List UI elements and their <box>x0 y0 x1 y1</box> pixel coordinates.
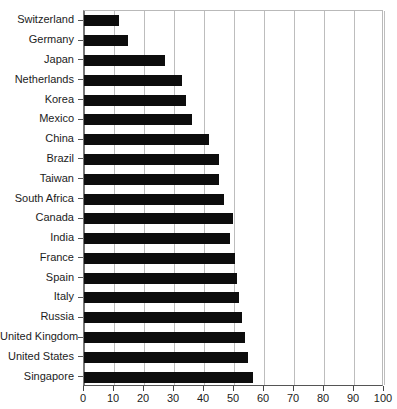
y-axis-tick <box>78 139 83 140</box>
x-axis-label: 10 <box>98 392 128 404</box>
x-axis-tick-40 <box>203 386 204 391</box>
x-axis-label: 20 <box>128 392 158 404</box>
x-axis-tick-0 <box>83 386 84 391</box>
bar <box>84 332 245 343</box>
y-axis-label: Netherlands <box>0 74 78 85</box>
y-axis-tick <box>78 20 83 21</box>
y-axis-tick <box>78 238 83 239</box>
y-axis-label: Russia <box>0 311 78 322</box>
bar-row <box>84 114 384 125</box>
bar <box>84 15 119 26</box>
bar-row <box>84 35 384 46</box>
y-axis-tick <box>78 337 83 338</box>
y-axis-tick <box>78 376 83 377</box>
bar <box>84 75 182 86</box>
bar-row <box>84 253 384 264</box>
x-axis-label: 40 <box>188 392 218 404</box>
bar <box>84 372 253 383</box>
x-axis-label: 60 <box>248 392 278 404</box>
y-axis-tick <box>78 277 83 278</box>
bar <box>84 352 248 363</box>
bar-row <box>84 55 384 66</box>
bar <box>84 273 237 284</box>
x-axis-tick-100 <box>383 386 384 391</box>
x-axis-label: 100 <box>368 392 397 404</box>
y-axis-tick <box>78 297 83 298</box>
y-axis-tick <box>78 257 83 258</box>
y-axis-label: Japan <box>0 54 78 65</box>
y-axis-label: Brazil <box>0 153 78 164</box>
plot-area <box>83 10 383 386</box>
bar-row <box>84 312 384 323</box>
bar <box>84 114 192 125</box>
bar <box>84 292 239 303</box>
bar-row <box>84 75 384 86</box>
bar-row <box>84 95 384 106</box>
y-axis-label: South Africa <box>0 193 78 204</box>
y-axis-tick <box>78 178 83 179</box>
x-axis-tick-20 <box>143 386 144 391</box>
x-axis: 0102030405060708090100 <box>0 386 391 409</box>
bar-row <box>84 233 384 244</box>
bar <box>84 95 186 106</box>
bar-row <box>84 273 384 284</box>
y-axis-label: Germany <box>0 34 78 45</box>
x-axis-label: 90 <box>338 392 368 404</box>
y-axis-label: Korea <box>0 94 78 105</box>
bar <box>84 194 224 205</box>
x-axis-tick-60 <box>263 386 264 391</box>
x-axis-tick-10 <box>113 386 114 391</box>
y-axis-label: Taiwan <box>0 173 78 184</box>
y-axis-label: Switzerland <box>0 14 78 25</box>
bar <box>84 35 128 46</box>
y-axis-label: Singapore <box>0 371 78 382</box>
y-axis-label: Canada <box>0 212 78 223</box>
y-axis-label: China <box>0 133 78 144</box>
bar <box>84 253 235 264</box>
y-axis-tick <box>78 99 83 100</box>
y-axis-tick <box>78 119 83 120</box>
y-axis-label: Spain <box>0 272 78 283</box>
y-axis-tick <box>78 198 83 199</box>
y-axis-label: Italy <box>0 291 78 302</box>
y-axis-label: Mexico <box>0 113 78 124</box>
x-axis-label: 30 <box>158 392 188 404</box>
y-axis-tick <box>78 79 83 80</box>
y-axis-label: France <box>0 252 78 263</box>
bar <box>84 154 219 165</box>
y-axis-category-labels: SwitzerlandGermanyJapanNetherlandsKoreaM… <box>0 10 78 386</box>
bar-row <box>84 352 384 363</box>
bar <box>84 213 233 224</box>
x-axis-label: 80 <box>308 392 338 404</box>
bar-row <box>84 372 384 383</box>
bar <box>84 174 219 185</box>
bar <box>84 55 165 66</box>
y-axis-label: United States <box>0 351 78 362</box>
bar-row <box>84 194 384 205</box>
x-axis-tick-90 <box>353 386 354 391</box>
y-axis-label: India <box>0 232 78 243</box>
y-axis-tick <box>78 40 83 41</box>
bar-row <box>84 134 384 145</box>
bar <box>84 312 242 323</box>
x-axis-label: 70 <box>278 392 308 404</box>
bar-row <box>84 213 384 224</box>
bar <box>84 233 230 244</box>
y-axis-tick <box>78 218 83 219</box>
x-axis-tick-70 <box>293 386 294 391</box>
y-axis-tick <box>78 317 83 318</box>
bar-row <box>84 292 384 303</box>
bar-row <box>84 174 384 185</box>
y-axis-label: United Kingdom <box>0 331 78 342</box>
x-axis-tick-50 <box>233 386 234 391</box>
bar-row <box>84 154 384 165</box>
x-axis-label: 50 <box>218 392 248 404</box>
bar <box>84 134 209 145</box>
y-axis-tick <box>78 158 83 159</box>
bar-row <box>84 332 384 343</box>
x-axis-label: 0 <box>68 392 98 404</box>
x-axis-tick-30 <box>173 386 174 391</box>
chart-title <box>0 0 391 8</box>
y-axis-tick <box>78 356 83 357</box>
